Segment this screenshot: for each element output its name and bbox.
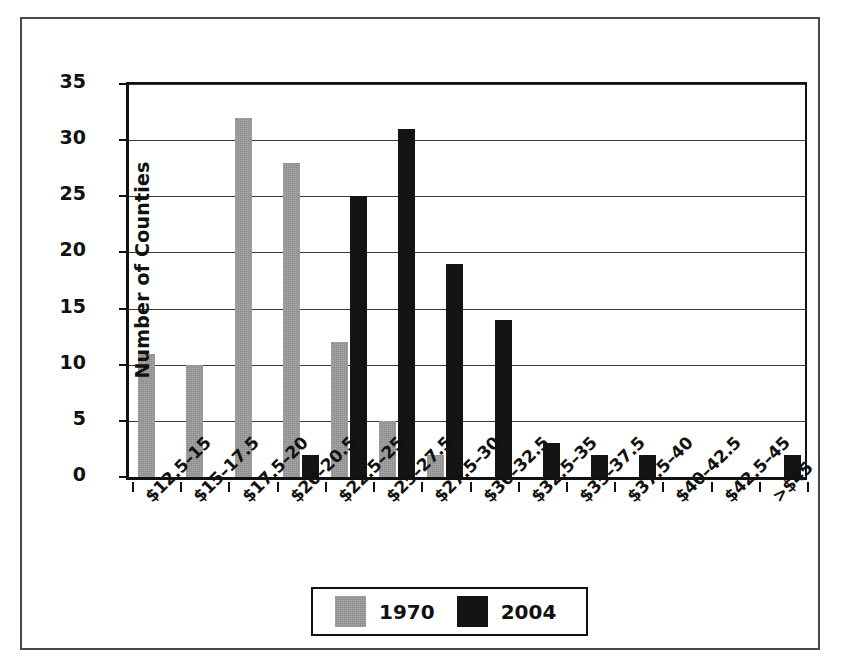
figure-canvas: Number of Counties 05101520253035 $12.5–…: [0, 0, 844, 669]
legend-label: 1970: [379, 600, 435, 624]
legend: 19702004: [311, 587, 588, 636]
x-axis-tick-labels: $12.5–15$15–17.5$17.5–20$20–20.5$22.5–25…: [22, 19, 844, 669]
legend-entry-2004: 2004: [457, 596, 557, 627]
black-swatch: [457, 596, 488, 627]
gray-swatch: [335, 596, 366, 627]
legend-label: 2004: [501, 600, 557, 624]
figure-border: Number of Counties 05101520253035 $12.5–…: [20, 17, 820, 650]
legend-entry-1970: 1970: [335, 596, 435, 627]
